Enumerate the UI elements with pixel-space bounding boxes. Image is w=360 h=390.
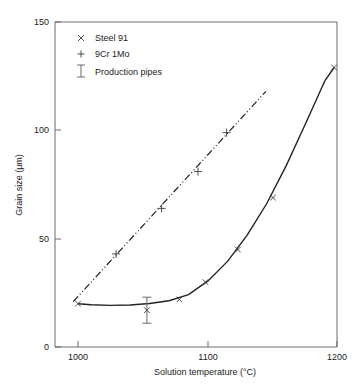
x-tick-label-1000: 1000 — [68, 352, 88, 362]
cross-marker-icon — [78, 35, 84, 41]
legend-label-production-pipes: Production pipes — [95, 67, 163, 77]
y-tick-label-50: 50 — [39, 234, 49, 244]
x-axis-tick-labels: 1000 1100 1200 — [68, 352, 347, 362]
legend-item-9cr-1mo[interactable]: 9Cr 1Mo — [78, 49, 130, 59]
x-axis-ticks — [78, 341, 337, 347]
legend-label-steel-91: Steel 91 — [95, 33, 128, 43]
legend-item-steel-91[interactable]: Steel 91 — [78, 33, 128, 43]
data-point-9cr1mo-1093 — [194, 168, 202, 176]
legend-item-production-pipes[interactable]: Production pipes — [77, 65, 163, 77]
data-point-9cr1mo-1115 — [223, 129, 231, 137]
y-tick-label-100: 100 — [34, 125, 49, 135]
series-markers-9cr1mo — [112, 129, 231, 258]
y-tick-label-0: 0 — [44, 342, 49, 352]
chart-figure: 0 50 100 150 1000 1100 1200 Solution tem… — [0, 0, 360, 390]
plot-area: 0 50 100 150 1000 1100 1200 Solution tem… — [0, 0, 360, 390]
data-point-9cr1mo-1065 — [158, 204, 166, 212]
y-axis-tick-labels: 0 50 100 150 — [34, 17, 49, 352]
chart-legend: Steel 91 9Cr 1Mo Production pipes — [77, 33, 163, 77]
y-tick-label-150: 150 — [34, 17, 49, 27]
legend-label-9cr-1mo: 9Cr 1Mo — [95, 49, 130, 59]
y-axis-ticks — [55, 22, 61, 347]
series-line-9cr1mo — [73, 91, 266, 301]
plus-marker-icon — [78, 51, 85, 58]
y-axis-title: Grain size (μm) — [14, 154, 24, 216]
x-tick-label-1200: 1200 — [327, 352, 347, 362]
x-tick-label-1100: 1100 — [198, 352, 217, 362]
series-markers-steel91 — [75, 65, 337, 313]
series-curve-steel91 — [78, 68, 334, 306]
data-point-steel91-1150 — [270, 195, 276, 201]
data-point-steel91-1197 — [331, 65, 337, 71]
errorbar-marker-icon — [77, 65, 85, 77]
x-axis-title: Solution temperature (°C) — [154, 367, 256, 377]
